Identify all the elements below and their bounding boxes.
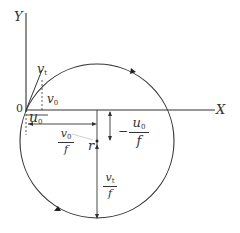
vt-label: vt: [37, 62, 47, 77]
dimension-v0-over-f: v0 f: [58, 128, 74, 155]
y-axis-label: Y: [14, 10, 23, 23]
dimension-arrow-icon: [95, 144, 99, 149]
dimension-arrow-icon: [108, 136, 112, 141]
radius-label: r: [88, 139, 94, 152]
x-axis-label: X: [216, 103, 225, 116]
center-point: [96, 140, 99, 143]
v0-label: v0: [47, 93, 58, 107]
dimension-vt-over-f: vt f: [103, 172, 117, 199]
u0-label: u0: [29, 110, 43, 126]
dimension-arrow-icon: [108, 111, 112, 116]
dimension-u0-over-f: u0 f: [129, 116, 149, 147]
minus-sign: −: [118, 125, 128, 137]
origin-label: 0: [16, 103, 23, 114]
dimension-arrow-icon: [92, 122, 97, 126]
